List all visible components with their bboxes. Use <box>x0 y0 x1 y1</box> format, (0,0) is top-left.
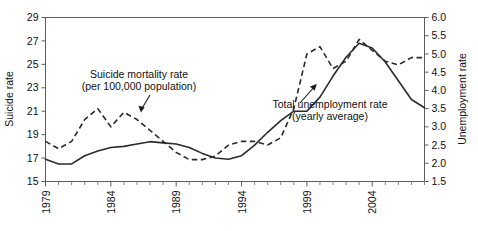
y-axis-right-ticklabel: 2.5 <box>432 139 447 151</box>
y-axis-left-ticks: 1517192123252729 <box>27 11 46 187</box>
y-axis-right-ticklabel: 5.5 <box>432 29 447 41</box>
unemployment-annotation-line1: Total unemployment rate <box>273 98 388 110</box>
y-axis-left-ticklabel: 23 <box>27 81 39 93</box>
y-axis-left-ticklabel: 19 <box>27 128 39 140</box>
suicide-annotation-line2: (per 100,000 population) <box>82 80 196 92</box>
y-axis-right-ticklabel: 2.0 <box>432 157 447 169</box>
y-axis-right-ticklabel: 3.0 <box>432 120 447 132</box>
y-axis-left-ticklabel: 25 <box>27 58 39 70</box>
x-axis-ticklabel: 2004 <box>366 190 378 214</box>
x-axis-ticks: 197919841989199419992004 <box>40 182 425 214</box>
x-axis-ticklabel: 1989 <box>170 190 182 214</box>
y-axis-left-ticklabel: 27 <box>27 35 39 47</box>
y-axis-right-ticks: 1.52.02.53.03.54.04.55.05.56.0 <box>425 11 447 187</box>
y-axis-right-ticklabel: 4.0 <box>432 84 447 96</box>
y-axis-left-ticklabel: 21 <box>27 105 39 117</box>
chart-container: 1517192123252729 1.52.02.53.03.54.04.55.… <box>0 0 478 231</box>
y-axis-right-ticklabel: 3.5 <box>432 102 447 114</box>
x-axis-ticklabel: 1979 <box>40 190 52 214</box>
suicide-annotation-line1: Suicide mortality rate <box>90 68 188 80</box>
y-axis-left-ticklabel: 29 <box>27 11 39 23</box>
suicide-annotation: Suicide mortality rate (per 100,000 popu… <box>82 68 196 113</box>
suicide-annotation-arrowhead <box>138 106 144 113</box>
x-axis-ticklabel: 1984 <box>105 190 117 214</box>
y-axis-right-ticklabel: 4.5 <box>432 66 447 78</box>
y-axis-right-ticklabel: 1.5 <box>432 175 447 187</box>
x-axis-ticklabel: 1994 <box>236 190 248 214</box>
dual-axis-line-chart: 1517192123252729 1.52.02.53.03.54.04.55.… <box>0 0 478 231</box>
y-axis-left-ticklabel: 15 <box>27 175 39 187</box>
y-axis-left-title: Suicide rate <box>3 71 15 127</box>
unemployment-annotation-line2: (yearly average) <box>292 110 368 122</box>
y-axis-left-ticklabel: 17 <box>27 152 39 164</box>
x-axis-ticklabel: 1999 <box>301 190 313 214</box>
y-axis-right-title: Unemployment rate <box>456 53 468 145</box>
y-axis-right-ticklabel: 5.0 <box>432 48 447 60</box>
y-axis-right-ticklabel: 6.0 <box>432 11 447 23</box>
